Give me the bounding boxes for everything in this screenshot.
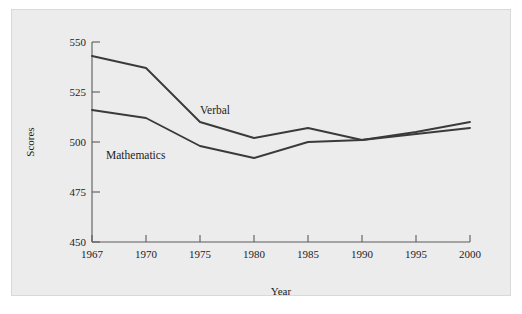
- y-tick-label-450: 450: [70, 236, 87, 248]
- x-tick-label-1980: 1980: [243, 248, 266, 260]
- x-tick-label-1985: 1985: [297, 248, 320, 260]
- x-tick-label-1990: 1990: [351, 248, 374, 260]
- y-tick-label-525: 525: [70, 86, 87, 98]
- y-axis-title: Scores: [24, 127, 36, 156]
- y-tick-labels: 550 525 500 475 450: [70, 36, 87, 248]
- y-tick-label-500: 500: [70, 136, 87, 148]
- x-tick-label-1967: 1967: [81, 248, 104, 260]
- x-tick-label-1970: 1970: [135, 248, 158, 260]
- x-tick-label-1995: 1995: [405, 248, 428, 260]
- x-tick-label-2000: 2000: [459, 248, 482, 260]
- series-annotation-mathematics: Mathematics: [106, 149, 166, 161]
- series-line-verbal: [92, 56, 470, 140]
- x-tick-label-1975: 1975: [189, 248, 212, 260]
- x-tick-marks: [92, 235, 470, 242]
- chart-figure: 550 525 500 475 450 1967 1970 1975 1980 …: [0, 0, 522, 314]
- y-tick-label-550: 550: [70, 36, 87, 48]
- x-tick-labels: 1967 1970 1975 1980 1985 1990 1995 2000: [81, 248, 482, 260]
- x-axis-title: Year: [271, 285, 292, 297]
- series-annotation-verbal: Verbal: [200, 104, 230, 116]
- y-tick-marks: [92, 42, 100, 242]
- line-chart: 550 525 500 475 450 1967 1970 1975 1980 …: [0, 0, 522, 314]
- y-tick-label-475: 475: [70, 186, 87, 198]
